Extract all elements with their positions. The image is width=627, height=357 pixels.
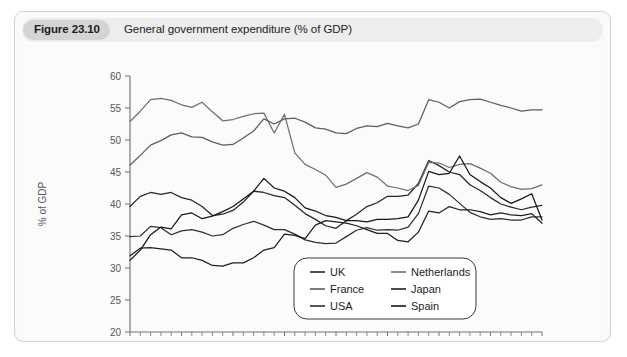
figure-caption: General government expenditure (% of GDP…	[124, 24, 352, 36]
figure-card: Figure 23.10 General government expendit…	[14, 11, 611, 342]
series-line-spain	[130, 156, 542, 260]
series-line-france	[130, 99, 542, 165]
series-line-usa	[130, 186, 542, 244]
legend-label-spain: Spain	[411, 300, 439, 312]
x-axis-minor-ticks	[130, 332, 542, 336]
line-chart: 202530354045505560 198019851990199520002…	[22, 46, 603, 336]
chart-series-lines	[130, 98, 542, 266]
y-tick-label: 35	[110, 231, 122, 242]
y-tick-label: 40	[110, 199, 122, 210]
series-line-japan	[130, 207, 542, 267]
y-tick-label: 45	[110, 167, 122, 178]
legend-label-usa: USA	[330, 300, 353, 312]
y-tick-label: 60	[110, 71, 122, 82]
y-tick-label: 25	[110, 295, 122, 306]
figure-header: Figure 23.10 General government expendit…	[22, 18, 603, 42]
y-tick-label: 30	[110, 263, 122, 274]
y-tick-label: 20	[110, 327, 122, 336]
legend-label-japan: Japan	[411, 283, 441, 295]
series-line-netherlands	[130, 98, 542, 190]
y-axis-title: % of GDP	[37, 181, 48, 226]
legend-label-uk: UK	[330, 266, 346, 278]
y-tick-label: 50	[110, 135, 122, 146]
figure-number-badge: Figure 23.10	[23, 20, 110, 40]
series-line-uk	[130, 160, 542, 228]
chart-plot-region: 202530354045505560 198019851990199520002…	[22, 46, 603, 336]
y-axis-ticks: 202530354045505560	[110, 71, 130, 336]
legend-label-france: France	[330, 283, 364, 295]
y-tick-label: 55	[110, 103, 122, 114]
chart-legend: UKNetherlandsFranceJapanUSASpain	[294, 258, 476, 319]
legend-label-netherlands: Netherlands	[411, 266, 471, 278]
